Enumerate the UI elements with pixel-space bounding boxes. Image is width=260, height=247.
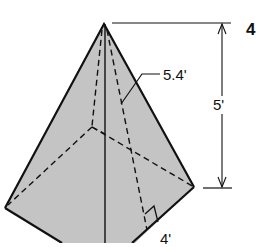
- problem-number: 4: [246, 21, 255, 38]
- height-label: 5': [213, 97, 224, 112]
- base-label: 4': [160, 231, 171, 246]
- slant-height-label: 5.4': [163, 67, 187, 82]
